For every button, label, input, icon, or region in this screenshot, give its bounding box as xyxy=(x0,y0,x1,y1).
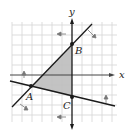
point-c xyxy=(70,95,74,99)
x-axis-label: x xyxy=(119,69,125,80)
point-a xyxy=(29,84,33,88)
y-axis-label: y xyxy=(68,6,75,17)
point-b xyxy=(70,42,74,46)
point-b-label: B xyxy=(74,45,82,56)
point-a-label: A xyxy=(25,91,33,102)
inequality-graph: x y A B C xyxy=(0,0,128,135)
point-c-label: C xyxy=(63,100,71,111)
